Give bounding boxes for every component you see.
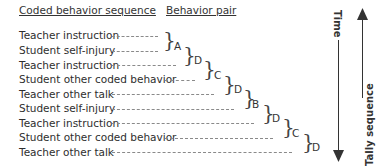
leader-line xyxy=(112,94,214,95)
pair-label: B xyxy=(252,98,259,110)
pair-label: D xyxy=(194,54,202,66)
pair-label: D xyxy=(272,112,280,124)
sequence-item: Student other coded behavior xyxy=(19,130,176,144)
pair-label: D xyxy=(312,141,320,153)
leader-line xyxy=(112,36,158,37)
header-behavior-pair: Behavior pair xyxy=(166,4,236,16)
leader-line xyxy=(112,109,234,110)
leader-line xyxy=(112,65,176,66)
sequence-item: Student self-injury xyxy=(19,43,115,57)
pair-label: D xyxy=(234,83,242,95)
leader-line xyxy=(165,138,273,139)
time-label: Time xyxy=(332,10,343,37)
leader-line xyxy=(165,80,195,81)
tally-axis-line xyxy=(362,18,363,98)
arrow-down-icon xyxy=(333,150,344,162)
leader-line xyxy=(112,123,254,124)
header-coded-behavior-sequence: Coded behavior sequence xyxy=(19,4,156,16)
sequence-item: Teacher instruction xyxy=(19,28,119,42)
sequence-item: Teacher instruction xyxy=(19,58,119,72)
tally-sequence-label: Tally sequence xyxy=(364,83,375,166)
leader-line xyxy=(112,152,292,153)
pair-label: A xyxy=(174,40,181,52)
sequence-item: Teacher instruction xyxy=(19,116,119,130)
time-axis-line xyxy=(338,40,339,152)
sequence-item: Teacher other talk xyxy=(19,87,114,101)
pair-label: C xyxy=(292,127,299,139)
pair-label: C xyxy=(214,69,221,81)
sequence-item: Student other coded behavior xyxy=(19,72,176,86)
sequence-item: Teacher other talk xyxy=(19,145,114,159)
leader-line xyxy=(112,51,158,52)
sequence-item: Student self-injury xyxy=(19,101,115,115)
